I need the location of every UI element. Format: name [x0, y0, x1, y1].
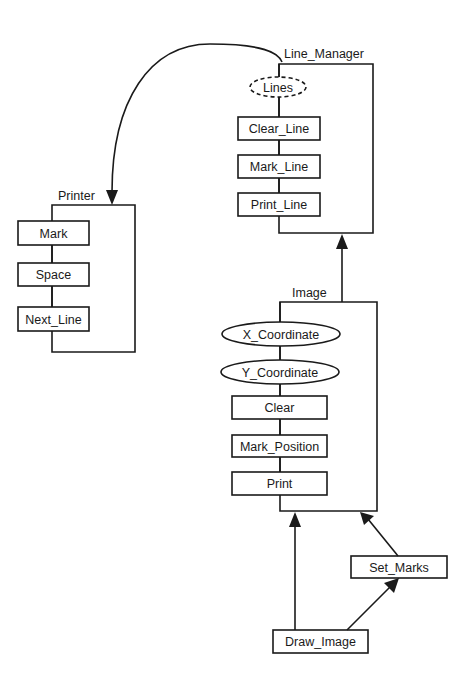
- y-coordinate-label: Y_Coordinate: [242, 366, 318, 380]
- x-coordinate-label: X_Coordinate: [243, 328, 319, 342]
- clear-line-label: Clear_Line: [249, 122, 310, 136]
- arrowhead-icon: [336, 234, 348, 249]
- object-x-coordinate[interactable]: X_Coordinate: [222, 322, 340, 346]
- op-next-line[interactable]: Next_Line: [18, 307, 89, 331]
- op-clear[interactable]: Clear: [232, 396, 327, 419]
- dependency-draw-image-to-image: [289, 512, 301, 630]
- clear-label: Clear: [265, 401, 295, 415]
- package-image: Image X_Coordinate Y_Coordinate Clear Ma…: [221, 286, 377, 511]
- diagram-canvas: Line_Manager Lines Clear_Line Mark_Line …: [0, 0, 473, 683]
- op-space[interactable]: Space: [18, 263, 89, 286]
- arrow-line: [347, 587, 390, 630]
- print-line-label: Print_Line: [251, 198, 307, 212]
- space-label: Space: [36, 268, 71, 282]
- line-manager-title: Line_Manager: [284, 47, 364, 61]
- op-print-line[interactable]: Print_Line: [238, 193, 320, 216]
- arrowhead-icon: [289, 512, 301, 527]
- object-y-coordinate[interactable]: Y_Coordinate: [221, 360, 339, 384]
- mark-line-label: Mark_Line: [250, 160, 308, 174]
- package-printer: Printer Mark Space Next_Line: [18, 189, 135, 352]
- arrowhead-icon: [106, 190, 118, 205]
- package-line-manager: Line_Manager Lines Clear_Line Mark_Line …: [238, 47, 373, 233]
- op-mark-position[interactable]: Mark_Position: [232, 435, 327, 457]
- arrow-line: [368, 519, 398, 556]
- dependency-set-marks-to-image: [360, 512, 398, 556]
- state-lines[interactable]: Lines: [250, 77, 306, 97]
- mark-position-label: Mark_Position: [240, 440, 319, 454]
- op-mark-line[interactable]: Mark_Line: [238, 155, 320, 178]
- printer-title: Printer: [58, 189, 95, 203]
- op-print[interactable]: Print: [232, 472, 327, 495]
- print-label: Print: [267, 477, 293, 491]
- next-line-label: Next_Line: [25, 313, 81, 327]
- set-marks-label: Set_Marks: [369, 561, 429, 575]
- dependency-draw-image-to-set-marks: [347, 578, 399, 630]
- op-clear-line[interactable]: Clear_Line: [238, 117, 320, 140]
- mark-label: Mark: [40, 227, 69, 241]
- op-mark[interactable]: Mark: [18, 221, 89, 245]
- draw-image-label: Draw_Image: [285, 635, 356, 649]
- dependency-image-to-line-manager: [336, 234, 348, 302]
- image-title: Image: [292, 286, 327, 300]
- lines-label: Lines: [263, 81, 293, 95]
- subprogram-draw-image[interactable]: Draw_Image: [273, 630, 368, 653]
- subprogram-set-marks[interactable]: Set_Marks: [351, 556, 447, 578]
